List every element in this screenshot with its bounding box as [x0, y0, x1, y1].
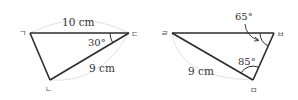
vertex-label-top-left: ㄹ	[161, 29, 168, 38]
side-right	[253, 33, 274, 80]
side-left	[30, 33, 50, 80]
angle-label: 30°	[88, 37, 106, 48]
angle-top-label: 65°	[235, 11, 253, 22]
diagram-canvas: 10 cm 30° 9 cm ㄱ ㄴ ㄷ 65° 85° 9 cm ㄹ ㅁ ㅂ	[0, 0, 298, 100]
triangle-left: 10 cm 30° 9 cm ㄱ ㄴ ㄷ	[19, 16, 138, 94]
angle-arc	[110, 33, 113, 43]
angle-arc-top	[260, 33, 268, 46]
side-diagonal-label: 9 cm	[89, 62, 115, 74]
vertex-label-top-right: ㄷ	[131, 30, 138, 39]
vertex-label-bottom: ㅁ	[250, 86, 257, 95]
vertex-label-bottom: ㄴ	[45, 85, 52, 94]
side-diagonal-label: 9 cm	[188, 65, 214, 77]
vertex-label-top-right: ㅂ	[277, 30, 284, 39]
angle-bottom-label: 85°	[238, 56, 256, 67]
triangle-right: 65° 85° 9 cm ㄹ ㅁ ㅂ	[161, 11, 284, 95]
vertex-label-top-left: ㄱ	[19, 29, 26, 38]
diagram-svg: 10 cm 30° 9 cm ㄱ ㄴ ㄷ 65° 85° 9 cm ㄹ ㅁ ㅂ	[0, 0, 298, 100]
side-top-label: 10 cm	[62, 16, 95, 28]
